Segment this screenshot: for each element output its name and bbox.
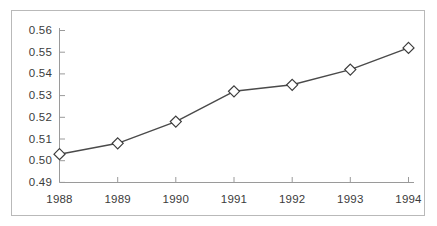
x-tick-label-1988: 1988 [37, 193, 83, 205]
data-point-1988 [54, 149, 65, 160]
y-tick-label-6: 0.50 [18, 154, 52, 166]
data-point-1991 [229, 86, 240, 97]
x-tick-label-1993: 1993 [327, 193, 373, 205]
y-tick-label-4: 0.52 [18, 111, 52, 123]
x-tick-label-1989: 1989 [95, 193, 141, 205]
x-tick-label-1992: 1992 [269, 193, 315, 205]
data-markers [54, 42, 414, 159]
y-tick-label-3: 0.53 [18, 89, 52, 101]
data-line-series-1 [60, 48, 409, 154]
data-point-1992 [287, 79, 298, 90]
y-tick-label-7: 0.49 [18, 176, 52, 188]
x-tick-marks [60, 177, 409, 183]
data-point-1993 [345, 64, 356, 75]
line-chart-figure: 0.56 0.55 0.54 0.53 0.52 0.51 0.50 0.49 … [0, 0, 437, 226]
data-point-1989 [112, 138, 123, 149]
y-tick-label-1: 0.55 [18, 46, 52, 58]
data-point-1990 [170, 116, 181, 127]
y-tick-label-2: 0.54 [18, 67, 52, 79]
y-tick-label-5: 0.51 [18, 133, 52, 145]
x-tick-label-1991: 1991 [211, 193, 257, 205]
x-tick-label-1990: 1990 [153, 193, 199, 205]
y-tick-label-0: 0.56 [18, 24, 52, 36]
x-tick-label-1994: 1994 [386, 193, 432, 205]
data-point-1994 [403, 42, 414, 53]
